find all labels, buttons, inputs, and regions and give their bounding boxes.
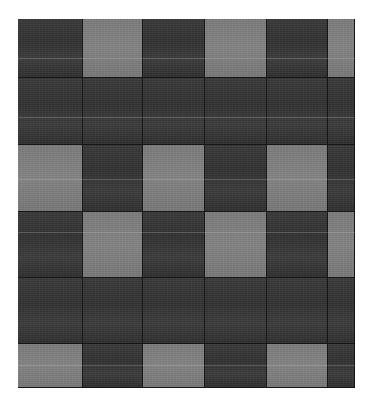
fabric-texture bbox=[328, 19, 354, 77]
fabric-texture bbox=[143, 19, 204, 77]
fabric-texture bbox=[267, 19, 327, 77]
fabric-texture bbox=[18, 212, 82, 277]
quilt-patch-light bbox=[328, 212, 355, 278]
quilt-patch-dark bbox=[267, 19, 328, 78]
quilt-patch-dark bbox=[18, 19, 83, 78]
fabric-texture bbox=[83, 19, 142, 77]
fabric-texture bbox=[205, 78, 266, 144]
stitch-line bbox=[18, 179, 355, 180]
fabric-texture bbox=[143, 212, 204, 277]
quilt-patch-light bbox=[83, 19, 143, 78]
quilt-patch-dark bbox=[205, 278, 267, 344]
quilt-patch-dark bbox=[267, 212, 328, 278]
quilt-patch-light bbox=[143, 344, 205, 388]
quilt-patch-dark bbox=[83, 78, 143, 145]
quilt-patch-dark bbox=[143, 212, 205, 278]
fabric-texture bbox=[205, 19, 266, 77]
quilt-patch-light bbox=[267, 344, 328, 388]
fabric-texture bbox=[143, 278, 204, 343]
quilt-patch-dark bbox=[205, 78, 267, 145]
quilt-patch-light bbox=[205, 212, 267, 278]
fabric-texture bbox=[205, 278, 266, 343]
quilt-patch-dark bbox=[143, 19, 205, 78]
stitch-line bbox=[18, 58, 355, 59]
quilt-patch-dark bbox=[18, 78, 83, 145]
fabric-texture bbox=[18, 145, 82, 211]
fabric-texture bbox=[267, 145, 327, 211]
quilt-patch-dark bbox=[18, 212, 83, 278]
fabric-texture bbox=[328, 78, 354, 144]
quilt-patch-dark bbox=[83, 344, 143, 388]
quilt-patch-light bbox=[83, 212, 143, 278]
quilt-patch-dark bbox=[18, 278, 83, 344]
fabric-texture bbox=[143, 78, 204, 144]
quilt-patch-light bbox=[205, 19, 267, 78]
fabric-texture bbox=[328, 145, 354, 211]
fabric-texture bbox=[328, 278, 354, 343]
quilt-patch-light bbox=[328, 19, 355, 78]
quilt-patch-light bbox=[18, 344, 83, 388]
stitch-line bbox=[18, 365, 355, 366]
fabric-texture bbox=[205, 212, 266, 277]
fabric-texture bbox=[83, 278, 142, 343]
quilt-patch-dark bbox=[143, 278, 205, 344]
quilt-patch-dark bbox=[83, 278, 143, 344]
fabric-texture bbox=[83, 212, 142, 277]
quilt-patch-dark bbox=[267, 78, 328, 145]
quilt-patch-dark bbox=[267, 278, 328, 344]
fabric-texture bbox=[267, 78, 327, 144]
fabric-texture bbox=[267, 212, 327, 277]
fabric-texture bbox=[328, 212, 354, 277]
fabric-texture bbox=[18, 19, 82, 77]
quilt-patch-dark bbox=[328, 78, 355, 145]
fabric-texture bbox=[143, 145, 204, 211]
fabric-texture bbox=[205, 145, 266, 211]
fabric-texture bbox=[18, 78, 82, 144]
fabric-texture bbox=[83, 78, 142, 144]
stitch-line bbox=[18, 117, 355, 118]
stitch-line bbox=[18, 232, 355, 233]
patchwork-quilt bbox=[18, 19, 355, 388]
fabric-texture bbox=[267, 278, 327, 343]
quilt-patch-dark bbox=[328, 344, 355, 388]
quilt-patch-dark bbox=[205, 344, 267, 388]
fabric-texture bbox=[18, 278, 82, 343]
quilt-patch-dark bbox=[328, 278, 355, 344]
quilt-patch-dark bbox=[143, 78, 205, 145]
fabric-texture bbox=[83, 145, 142, 211]
